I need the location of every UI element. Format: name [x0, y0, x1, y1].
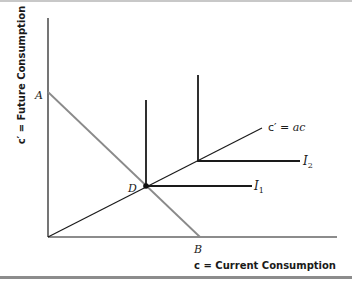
label-d: D [127, 182, 137, 195]
ray-c-prime-equals-ac [48, 128, 262, 237]
label-b: B [193, 243, 202, 256]
label-a: A [34, 89, 43, 102]
label-i2: I2 [302, 154, 313, 170]
figure-frame: A B D c′ = ac I1 I2 c = Current Consumpt… [0, 0, 352, 284]
bottom-rule [0, 276, 352, 279]
indifference-curve-i2 [198, 75, 300, 161]
point-d-marker [143, 183, 149, 189]
y-axis-label: c′ = Future Consumption [16, 6, 27, 145]
indifference-curve-i1 [146, 100, 252, 186]
label-ray-prefix: c′ = [268, 121, 293, 134]
consumption-diagram: A B D c′ = ac I1 I2 c = Current Consumpt… [0, 0, 352, 284]
label-i1: I1 [253, 179, 264, 195]
label-i2-sub: 2 [308, 161, 313, 170]
budget-line [48, 92, 200, 237]
label-ray: c′ = ac [268, 121, 305, 134]
label-ray-var: ac [293, 121, 306, 134]
label-i1-sub: 1 [259, 186, 264, 195]
x-axis-label: c = Current Consumption [194, 260, 336, 271]
